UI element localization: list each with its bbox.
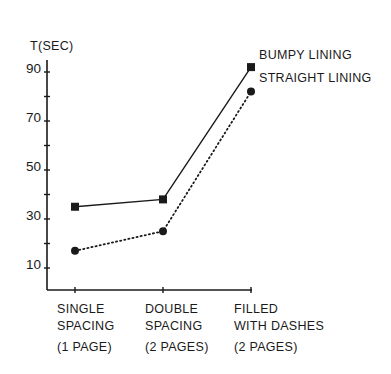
y-tick-label: 10: [26, 257, 41, 272]
y-tick-labels: 1030507090: [26, 61, 41, 272]
axes: [44, 60, 252, 293]
circle-marker: [159, 227, 167, 235]
legend: BUMPY LININGSTRAIGHT LINING: [259, 48, 372, 85]
square-marker: [71, 203, 79, 211]
series-line: [75, 67, 251, 207]
y-tick-label: 30: [26, 208, 41, 223]
legend-label: STRAIGHT LINING: [259, 71, 372, 85]
x-category-labels: SINGLESPACING(1 PAGE)DOUBLESPACING(2 PAG…: [57, 302, 324, 354]
x-category-label-line: (1 PAGE): [57, 340, 112, 354]
square-marker: [247, 63, 255, 71]
x-category-label-line: FILLED: [234, 302, 278, 316]
series-straight-lining: [71, 88, 255, 255]
circle-marker: [71, 247, 79, 255]
circle-marker: [247, 88, 255, 96]
x-category-label-line: SPACING: [57, 319, 114, 333]
x-category-label: DOUBLESPACING(2 PAGES): [145, 302, 209, 354]
x-category-label-line: (2 PAGES): [145, 340, 209, 354]
series-line: [75, 92, 251, 251]
series-bumpy-lining: [71, 63, 255, 211]
y-tick-label: 50: [26, 159, 41, 174]
legend-label: BUMPY LINING: [259, 48, 352, 62]
line-chart: T(SEC) 1030507090 BUMPY LININGSTRAIGHT L…: [0, 0, 391, 374]
y-tick-label: 70: [26, 110, 41, 125]
x-category-label: FILLEDWITH DASHES(2 PAGES): [234, 302, 324, 354]
x-category-label-line: SPACING: [145, 319, 202, 333]
x-category-label-line: (2 PAGES): [234, 340, 298, 354]
x-category-label: SINGLESPACING(1 PAGE): [57, 302, 114, 354]
square-marker: [159, 195, 167, 203]
x-category-label-line: SINGLE: [57, 302, 105, 316]
x-category-label-line: WITH DASHES: [234, 319, 324, 333]
x-category-label-line: DOUBLE: [145, 302, 198, 316]
y-axis-title: T(SEC): [30, 39, 73, 53]
series-layer: [71, 63, 255, 255]
y-tick-label: 90: [26, 61, 41, 76]
